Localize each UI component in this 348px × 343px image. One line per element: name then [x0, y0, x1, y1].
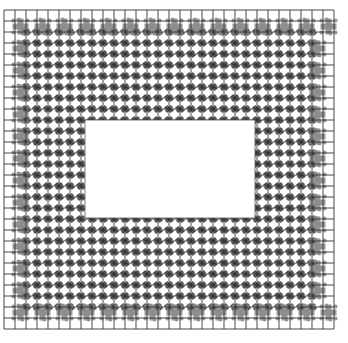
pad-cluster: [275, 303, 293, 321]
pad-cluster: [209, 303, 227, 321]
pad-cluster: [308, 105, 326, 123]
pad-cluster: [11, 17, 29, 35]
pad-cluster: [297, 17, 315, 35]
pinout-diagram: [0, 0, 348, 343]
pad-cluster: [11, 193, 29, 211]
pad-cluster: [165, 17, 183, 35]
center-cutout: [85, 120, 255, 218]
pad-cluster: [11, 149, 29, 167]
pad-cluster: [11, 281, 29, 299]
pad-cluster: [187, 17, 205, 35]
pad-cluster: [11, 105, 29, 123]
pad-cluster: [308, 39, 326, 57]
pad-cluster: [231, 17, 249, 35]
pad-cluster: [99, 17, 117, 35]
pad-cluster: [308, 171, 326, 189]
pad-cluster: [143, 17, 161, 35]
pad-cluster: [308, 61, 326, 79]
pad-cluster: [99, 303, 117, 321]
pad-cluster: [297, 303, 315, 321]
pad-cluster: [308, 127, 326, 145]
pad-cluster: [308, 259, 326, 277]
pad-cluster: [319, 303, 337, 321]
pad-cluster: [33, 17, 51, 35]
pad-cluster: [308, 83, 326, 101]
pad-cluster: [187, 303, 205, 321]
pad-cluster: [11, 237, 29, 255]
pad-cluster: [55, 303, 73, 321]
pad-cluster: [121, 17, 139, 35]
pad-cluster: [11, 303, 29, 321]
pad-cluster: [121, 303, 139, 321]
pad-cluster: [11, 61, 29, 79]
pad-cluster: [253, 303, 271, 321]
pad-cluster: [165, 303, 183, 321]
pad-cluster: [77, 303, 95, 321]
pad-cluster: [308, 237, 326, 255]
pad-cluster: [209, 17, 227, 35]
pad-cluster: [55, 17, 73, 35]
pad-cluster: [319, 17, 337, 35]
pad-cluster: [77, 17, 95, 35]
pad-cluster: [143, 303, 161, 321]
pad-cluster: [33, 303, 51, 321]
pad-cluster: [308, 149, 326, 167]
pad-cluster: [308, 215, 326, 233]
pad-cluster: [11, 83, 29, 101]
pad-cluster: [308, 281, 326, 299]
pad-cluster: [275, 17, 293, 35]
pad-cluster: [308, 193, 326, 211]
pad-cluster: [11, 171, 29, 189]
pad-cluster: [253, 17, 271, 35]
pad-cluster: [231, 303, 249, 321]
pad-cluster: [11, 127, 29, 145]
pad-cluster: [11, 39, 29, 57]
pad-cluster: [11, 259, 29, 277]
pad-cluster: [11, 215, 29, 233]
